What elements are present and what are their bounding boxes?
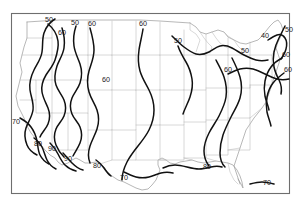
contour-label: 70 xyxy=(12,117,20,126)
contour-label: 60 xyxy=(139,19,147,28)
contour-label: 60 xyxy=(58,28,66,37)
contour-label: 80 xyxy=(34,139,42,148)
contour-label: 80 xyxy=(203,162,211,171)
contour-label: 60 xyxy=(224,65,232,74)
contour-label: 90 xyxy=(64,154,72,163)
contour-label: 90 xyxy=(48,144,56,153)
contour-label: 80 xyxy=(93,161,101,170)
contour-label: 50 xyxy=(45,15,53,24)
contour-label: 50 xyxy=(174,36,182,45)
contour-label: 60 xyxy=(88,19,96,28)
contour-label: 50 xyxy=(285,25,293,34)
contour-label: 70 xyxy=(263,178,271,187)
contour-label: 70 xyxy=(120,173,128,182)
contour-label: 50 xyxy=(241,46,249,55)
map-canvas: 50 50 60 60 60 50 40 50 50 60 60 60 60 7… xyxy=(0,0,302,211)
contour-label: 60 xyxy=(102,75,110,84)
contour-label: 40 xyxy=(261,31,269,40)
contour-label: 50 xyxy=(71,18,79,27)
contour-label: 60 xyxy=(284,65,292,74)
contour-label: 60 xyxy=(282,50,290,59)
contour-map-figure: 50 50 60 60 60 50 40 50 50 60 60 60 60 7… xyxy=(0,0,302,211)
